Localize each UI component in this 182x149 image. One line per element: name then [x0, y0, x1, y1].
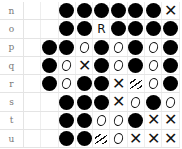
board-cell[interactable] [76, 130, 93, 147]
board-cell[interactable] [145, 20, 162, 37]
board-cell[interactable] [128, 2, 145, 19]
hatch-mark-icon [95, 134, 107, 144]
board-cell[interactable] [76, 2, 93, 19]
board-cell[interactable] [110, 130, 127, 147]
board-cell[interactable]: ✕ [162, 112, 179, 129]
circle-mark-icon [113, 132, 125, 145]
circle-mark-icon [61, 77, 73, 90]
board-cell[interactable]: ✕ [110, 75, 127, 92]
board-cell[interactable] [110, 57, 127, 74]
circle-mark-icon [95, 114, 107, 127]
row-label: u [0, 130, 24, 147]
board-cell[interactable] [93, 112, 110, 129]
board-cell[interactable] [93, 130, 110, 147]
board-cell[interactable]: ✕ [145, 130, 162, 147]
board-cell[interactable] [76, 39, 93, 56]
board-cell[interactable] [41, 20, 58, 37]
hatch-mark-icon [130, 79, 142, 89]
black-stone-icon [77, 95, 92, 110]
board-cell[interactable]: ✕ [110, 93, 127, 110]
board-cell[interactable]: ✕ [162, 130, 179, 147]
board-cell[interactable] [76, 75, 93, 92]
board-cell[interactable] [93, 39, 110, 56]
black-stone-icon [42, 58, 57, 73]
board-cell[interactable] [93, 93, 110, 110]
board-cell[interactable] [24, 20, 41, 37]
board-cell[interactable] [41, 130, 58, 147]
board-cell[interactable] [59, 112, 76, 129]
board-cell[interactable] [145, 39, 162, 56]
board-cell[interactable] [59, 130, 76, 147]
board-cell[interactable] [24, 112, 41, 129]
board-cell[interactable] [93, 57, 110, 74]
board-cell[interactable] [24, 2, 41, 19]
board-cell[interactable] [128, 93, 145, 110]
board-cell[interactable] [24, 57, 41, 74]
board-cell[interactable] [110, 2, 127, 19]
board-cell[interactable] [76, 20, 93, 37]
board-cell[interactable] [145, 57, 162, 74]
board-cell[interactable] [162, 57, 179, 74]
black-stone-icon [163, 76, 178, 91]
board-cell[interactable] [41, 75, 58, 92]
black-stone-icon [94, 58, 109, 73]
board-cell[interactable] [76, 93, 93, 110]
board-cell[interactable]: ✕ [162, 2, 179, 19]
black-stone-icon [163, 58, 178, 73]
board-cell[interactable] [162, 39, 179, 56]
black-stone-icon [77, 131, 92, 146]
board-cell[interactable] [41, 93, 58, 110]
x-mark-icon: ✕ [78, 58, 91, 74]
board-cell[interactable] [59, 75, 76, 92]
board-cell[interactable] [24, 39, 41, 56]
black-stone-icon [163, 21, 178, 36]
board-cell[interactable] [41, 57, 58, 74]
board-cell[interactable] [59, 93, 76, 110]
board-cell[interactable] [24, 93, 41, 110]
black-stone-icon [111, 21, 126, 36]
circle-mark-icon [113, 41, 125, 54]
board-cell[interactable] [24, 130, 41, 147]
board-cell[interactable] [110, 20, 127, 37]
board-cell[interactable]: ✕ [128, 130, 145, 147]
board-cell[interactable] [59, 20, 76, 37]
board-cell[interactable] [162, 20, 179, 37]
board-cell[interactable] [128, 20, 145, 37]
board-row-p: p [0, 39, 180, 57]
black-stone-icon [128, 21, 143, 36]
board-cell[interactable] [145, 2, 162, 19]
board-cell[interactable] [41, 112, 58, 129]
board-cell[interactable] [93, 75, 110, 92]
board-cell[interactable]: ✕ [76, 57, 93, 74]
x-mark-icon: ✕ [147, 112, 160, 128]
x-mark-icon: ✕ [164, 3, 177, 19]
board-cell[interactable] [128, 57, 145, 74]
board-cell[interactable] [41, 39, 58, 56]
board-cell[interactable]: ✕ [145, 112, 162, 129]
board-cell[interactable] [162, 75, 179, 92]
board-cell[interactable] [24, 75, 41, 92]
black-stone-icon [42, 76, 57, 91]
board-cell[interactable] [110, 39, 127, 56]
black-stone-icon [59, 113, 74, 128]
row-label: o [0, 20, 24, 37]
board-cell[interactable] [59, 39, 76, 56]
board-cell[interactable] [41, 2, 58, 19]
board-cell[interactable] [145, 93, 162, 110]
black-stone-icon [94, 76, 109, 91]
circle-mark-icon [113, 59, 125, 72]
board-cell[interactable] [162, 93, 179, 110]
board-cell[interactable] [76, 112, 93, 129]
black-stone-icon [163, 40, 178, 55]
board-cell[interactable] [110, 112, 127, 129]
board-cell[interactable] [128, 39, 145, 56]
board-cell[interactable] [128, 112, 145, 129]
board-cell[interactable]: R [93, 20, 110, 37]
board-cell[interactable] [59, 2, 76, 19]
board-row-r: r✕ [0, 75, 180, 93]
board-cell[interactable] [59, 57, 76, 74]
game-board: n✕oRpq✕r✕s✕t✕✕u✕✕✕ [0, 2, 180, 148]
board-cell[interactable] [145, 75, 162, 92]
board-cell[interactable] [128, 75, 145, 92]
board-cell[interactable] [93, 2, 110, 19]
